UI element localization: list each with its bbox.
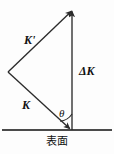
vector-diagram-figure: K' K ΔK θ 表面 bbox=[0, 0, 114, 154]
vector-label-delta-k: ΔK bbox=[79, 65, 95, 77]
angle-label-theta: θ bbox=[59, 108, 64, 119]
vector-diagram-canvas bbox=[0, 0, 114, 154]
vector-label-k: K bbox=[22, 99, 30, 111]
vector-label-k-prime: K' bbox=[24, 34, 35, 46]
vector-k-line bbox=[8, 72, 70, 129]
vector-k-prime-line bbox=[8, 11, 71, 72]
surface-label: 表面 bbox=[0, 135, 114, 147]
